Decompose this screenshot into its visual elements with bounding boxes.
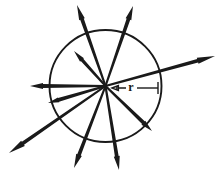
figure-canvas: r (0, 0, 222, 173)
vector-north-northeast (105, 6, 133, 86)
vector-northwest-long (77, 5, 106, 86)
vector-northwest-short (74, 51, 106, 87)
radius-leader-arrow-left (112, 86, 126, 91)
radial-vector-diagram: r (0, 0, 222, 173)
radius-label: r (128, 80, 134, 94)
